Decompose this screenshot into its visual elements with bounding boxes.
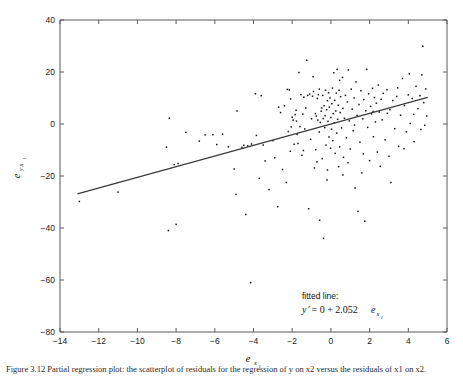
data-point <box>173 164 175 166</box>
data-point <box>381 119 383 121</box>
data-point <box>245 214 247 216</box>
data-point <box>320 111 322 113</box>
data-point <box>326 109 328 111</box>
data-point <box>314 167 316 169</box>
data-point <box>306 60 308 62</box>
data-point <box>322 118 324 120</box>
data-point <box>294 114 296 116</box>
data-point <box>311 118 313 120</box>
data-point <box>397 87 399 89</box>
data-point <box>305 107 307 109</box>
data-point <box>338 89 340 91</box>
x-tick-label: 0 <box>329 336 334 346</box>
data-point <box>415 86 417 88</box>
data-point <box>277 206 279 208</box>
data-point <box>372 88 374 90</box>
data-point <box>338 166 340 168</box>
data-point <box>419 95 421 97</box>
data-point <box>299 126 301 128</box>
x-axis-title-main: e <box>246 353 251 364</box>
data-point <box>319 131 321 133</box>
data-point <box>373 136 375 138</box>
data-point <box>319 88 321 90</box>
data-point <box>342 108 344 110</box>
data-point <box>324 115 326 117</box>
data-point <box>185 132 187 134</box>
data-point <box>325 144 327 146</box>
data-point <box>332 140 334 142</box>
data-point <box>302 113 304 115</box>
data-point <box>369 160 371 162</box>
data-point <box>316 115 318 117</box>
data-point <box>378 84 380 86</box>
data-point <box>358 104 360 106</box>
data-point <box>334 100 336 102</box>
data-point <box>363 99 365 101</box>
data-point <box>262 144 264 146</box>
annotation-eq-mid: = 0 + 2.052 <box>312 304 358 315</box>
data-point <box>307 95 309 97</box>
data-point <box>345 95 347 97</box>
data-point <box>390 182 392 184</box>
data-point <box>361 172 363 174</box>
data-point <box>296 120 298 122</box>
axis-top-right <box>60 20 447 332</box>
data-point <box>290 126 292 128</box>
data-point <box>303 150 305 152</box>
data-point <box>384 139 386 141</box>
data-point <box>321 158 323 160</box>
y-axis-title-sub2: 1 <box>22 158 27 161</box>
data-point <box>199 140 201 142</box>
data-point <box>317 119 319 121</box>
data-point <box>337 119 339 121</box>
data-point <box>367 127 369 129</box>
data-point <box>374 97 376 99</box>
data-point <box>169 118 171 120</box>
data-point <box>251 143 253 145</box>
x-tick-label: −6 <box>210 336 220 346</box>
data-point <box>309 93 311 95</box>
data-point <box>250 282 252 284</box>
data-point <box>350 148 352 150</box>
data-point <box>413 114 415 116</box>
data-point <box>375 121 377 123</box>
data-point <box>424 125 426 127</box>
data-point <box>325 89 327 91</box>
data-point <box>336 69 338 71</box>
data-point <box>413 141 415 143</box>
y-axis-title-main: e <box>11 173 22 178</box>
data-point <box>293 144 295 146</box>
data-point <box>290 98 292 100</box>
data-point <box>233 168 235 170</box>
data-point <box>268 189 270 191</box>
data-point <box>166 146 168 148</box>
data-point <box>339 80 341 82</box>
annotation-eq-sub: x <box>376 310 380 317</box>
data-point <box>319 219 321 221</box>
data-point <box>300 94 302 96</box>
data-point <box>282 169 284 171</box>
data-point <box>353 97 355 99</box>
data-point <box>409 73 411 75</box>
data-point <box>323 238 325 240</box>
data-point <box>332 87 334 89</box>
figure-caption: Figure 3.12 Partial regression plot: the… <box>6 364 458 374</box>
data-point <box>331 103 333 105</box>
data-point <box>339 112 341 114</box>
x-tick-label: −10 <box>130 336 145 346</box>
data-point <box>274 157 276 159</box>
data-point <box>327 100 329 102</box>
data-point <box>402 78 404 80</box>
data-point <box>304 128 306 130</box>
data-point <box>297 143 299 145</box>
data-point <box>396 96 398 98</box>
annotation-eq-sub2: 1 <box>381 315 384 320</box>
data-points-group <box>79 46 428 284</box>
data-point <box>333 72 335 74</box>
fitted-line <box>77 97 427 194</box>
data-point <box>320 122 322 124</box>
data-point <box>278 106 280 108</box>
data-point <box>422 46 424 48</box>
data-point <box>255 93 257 95</box>
data-point <box>404 105 406 107</box>
